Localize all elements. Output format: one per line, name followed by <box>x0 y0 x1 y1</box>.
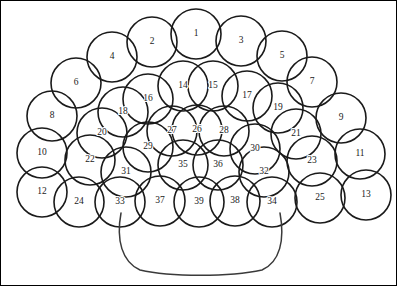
circle-label-26: 26 <box>192 124 202 134</box>
figure-root: 1234567891011121314151617181920212223242… <box>0 0 397 286</box>
circle-label-18: 18 <box>118 106 128 116</box>
circle-label-3: 3 <box>239 35 244 45</box>
circle-label-4: 4 <box>110 51 115 61</box>
circle-label-30: 30 <box>250 143 260 153</box>
circle-label-33: 33 <box>115 196 125 206</box>
circle-label-19: 19 <box>273 102 283 112</box>
circle-diagram-canvas: 1234567891011121314151617181920212223242… <box>0 0 397 286</box>
circle-label-20: 20 <box>97 127 107 137</box>
circle-label-5: 5 <box>280 50 285 60</box>
circle-label-28: 28 <box>219 125 229 135</box>
circle-label-37: 37 <box>155 195 165 205</box>
circle-label-14: 14 <box>178 80 188 90</box>
circle-label-6: 6 <box>74 77 79 87</box>
circle-label-27: 27 <box>167 125 177 135</box>
circle-label-23: 23 <box>307 155 317 165</box>
circle-label-7: 7 <box>310 76 315 86</box>
circle-label-36: 36 <box>213 159 223 169</box>
circle-label-35: 35 <box>178 159 188 169</box>
circle-label-8: 8 <box>50 110 55 120</box>
circle-label-38: 38 <box>230 195 240 205</box>
circle-label-34: 34 <box>267 196 277 206</box>
circle-label-10: 10 <box>37 147 47 157</box>
circle-label-17: 17 <box>242 90 252 100</box>
circle-label-16: 16 <box>143 93 153 103</box>
circle-label-22: 22 <box>85 154 95 164</box>
circle-label-2: 2 <box>150 36 155 46</box>
circle-label-9: 9 <box>339 112 344 122</box>
circle-label-24: 24 <box>74 196 84 206</box>
circle-label-12: 12 <box>37 186 47 196</box>
circle-label-21: 21 <box>291 128 301 138</box>
circle-label-29: 29 <box>143 141 153 151</box>
circle-label-31: 31 <box>121 166 131 176</box>
circle-label-15: 15 <box>208 80 218 90</box>
circle-label-13: 13 <box>361 189 371 199</box>
circle-label-39: 39 <box>194 196 204 206</box>
circle-label-1: 1 <box>194 28 199 38</box>
circle-label-11: 11 <box>355 148 364 158</box>
circle-label-32: 32 <box>259 166 269 176</box>
circles-layer <box>17 9 391 227</box>
circle-label-25: 25 <box>315 192 325 202</box>
